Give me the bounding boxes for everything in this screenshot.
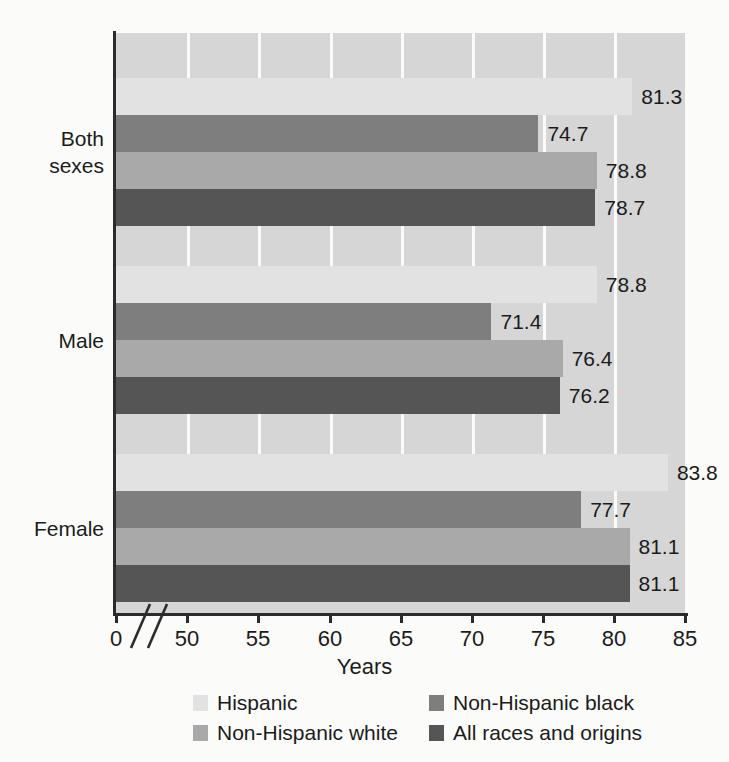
y-axis-line — [113, 31, 116, 615]
x-axis-tick-label: 65 — [389, 626, 413, 652]
x-axis-tick — [684, 613, 687, 623]
x-axis-tick — [257, 613, 260, 623]
x-axis-tick-label: 70 — [460, 626, 484, 652]
legend-label: Hispanic — [217, 691, 298, 715]
x-axis-tick-label: 75 — [531, 626, 555, 652]
x-axis-tick-label: 80 — [602, 626, 626, 652]
category-label-line: sexes — [0, 152, 104, 179]
axis-break-icon — [126, 598, 174, 654]
bar — [116, 454, 668, 491]
x-axis-tick — [115, 613, 118, 623]
legend-item: All races and origins — [429, 720, 642, 746]
legend: HispanicNon-Hispanic blackNon-Hispanic w… — [193, 690, 613, 748]
legend-swatch-icon — [429, 725, 444, 741]
category-label-line: Male — [0, 327, 104, 354]
x-axis-tick-label: 0 — [110, 626, 122, 652]
category-label: Bothsexes — [0, 125, 104, 179]
legend-swatch-icon — [429, 695, 444, 711]
category-axis-labels: BothsexesMaleFemale — [0, 33, 104, 613]
bar — [116, 491, 581, 528]
x-axis-tick-label: 55 — [246, 626, 270, 652]
x-axis-tick — [186, 613, 189, 623]
legend-swatch-icon — [193, 695, 208, 711]
bar — [116, 528, 630, 565]
category-label: Male — [0, 327, 104, 354]
x-axis-tick — [542, 613, 545, 623]
legend-label: Non-Hispanic white — [217, 721, 398, 745]
legend-item: Non-Hispanic black — [429, 690, 634, 716]
x-axis-title: Years — [0, 654, 729, 680]
x-axis-tick — [329, 613, 332, 623]
legend-swatch-icon — [193, 725, 208, 741]
x-axis-tick-label: 85 — [673, 626, 697, 652]
x-axis-tick — [471, 613, 474, 623]
bar-value-label: 81.1 — [630, 528, 680, 565]
life-expectancy-bar-chart: 81.374.778.878.778.871.476.476.283.877.7… — [0, 0, 729, 762]
x-axis-tick — [613, 613, 616, 623]
x-axis-tick-label: 60 — [318, 626, 342, 652]
legend-item: Non-Hispanic white — [193, 720, 398, 746]
x-axis-tick — [400, 613, 403, 623]
legend-item: Hispanic — [193, 690, 298, 716]
bar-value-label: 77.7 — [581, 491, 631, 528]
category-label: Female — [0, 515, 104, 542]
x-axis-tick-label: 50 — [175, 626, 199, 652]
legend-label: Non-Hispanic black — [453, 691, 634, 715]
bar — [116, 565, 630, 602]
bar-value-label: 83.8 — [668, 454, 718, 491]
legend-label: All races and origins — [453, 721, 642, 745]
bar-value-label: 81.1 — [630, 565, 680, 602]
category-label-line: Both — [0, 125, 104, 152]
category-label-line: Female — [0, 515, 104, 542]
